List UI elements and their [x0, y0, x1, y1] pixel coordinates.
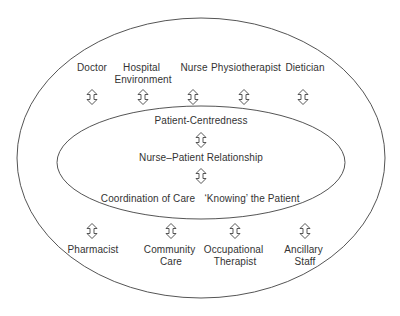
label-nurse-patient-relationship: Nurse–Patient Relationship	[139, 152, 263, 163]
label-patient-centredness: Patient-Centredness	[154, 115, 247, 126]
label-pharmacist: Pharmacist	[67, 244, 118, 255]
label-coordination-of-care: Coordination of Care	[101, 193, 196, 204]
outer-top-arrows	[87, 90, 308, 105]
double-arrow-icon	[87, 90, 97, 105]
label-ancillary-staff: Ancillary Staff	[284, 244, 326, 267]
outer-top-labels: Doctor Hospital Environment Nurse Physio…	[77, 62, 325, 85]
nurse-patient-relationship-diagram: Doctor Hospital Environment Nurse Physio…	[0, 0, 400, 316]
outer-bottom-arrows	[87, 224, 310, 239]
double-arrow-icon	[300, 224, 310, 239]
double-arrow-icon	[239, 90, 249, 105]
double-arrow-icon	[138, 90, 148, 105]
inner-ring-contents: Patient-Centredness Nurse–Patient Relati…	[101, 115, 300, 204]
double-arrow-icon	[196, 169, 206, 184]
label-knowing-the-patient: ‘Knowing’ the Patient	[204, 193, 299, 204]
double-arrow-icon	[188, 90, 198, 105]
outer-bottom-labels: Pharmacist Community Care Occupational T…	[67, 244, 325, 267]
double-arrow-icon	[230, 224, 240, 239]
label-physiotherapist: Physiotherapist	[211, 62, 281, 73]
label-dietician: Dietician	[285, 62, 324, 73]
double-arrow-icon	[87, 224, 97, 239]
label-hospital-environment: Hospital Environment	[114, 62, 171, 85]
double-arrow-icon	[298, 90, 308, 105]
double-arrow-icon	[166, 224, 176, 239]
label-doctor: Doctor	[77, 62, 108, 73]
double-arrow-icon	[196, 133, 206, 148]
label-nurse: Nurse	[180, 62, 208, 73]
label-occupational-therapist: Occupational Therapist	[204, 244, 266, 267]
label-community-care: Community Care	[144, 244, 198, 267]
